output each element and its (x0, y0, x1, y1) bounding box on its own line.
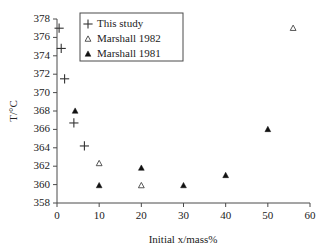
x-tick-label: 50 (262, 209, 274, 221)
y-tick-label: 376 (34, 30, 51, 42)
marker-triangle-filled (96, 182, 102, 187)
y-tick-label: 366 (34, 122, 51, 134)
legend-label: Marshall 1981 (97, 47, 161, 59)
x-tick-label: 40 (220, 209, 232, 221)
marker-triangle-open (290, 25, 296, 30)
y-tick-label: 364 (34, 141, 51, 153)
y-axis-ticks: 358360362364366368370372374376378 (34, 12, 58, 208)
marker-plus (55, 24, 64, 33)
y-tick-label: 360 (34, 178, 51, 190)
marker-triangle-filled (223, 172, 229, 177)
marker-plus (69, 118, 78, 127)
x-tick-label: 10 (94, 209, 106, 221)
y-tick-label: 368 (34, 104, 51, 116)
y-tick-label: 358 (34, 196, 51, 208)
x-tick-label: 60 (305, 209, 317, 221)
y-tick-label: 374 (34, 49, 51, 61)
series-marshall-1981 (72, 108, 271, 188)
marker-triangle-filled (181, 182, 187, 187)
y-tick-label: 370 (34, 86, 51, 98)
marker-plus (60, 74, 69, 83)
marker-triangle-filled (138, 165, 144, 170)
marker-triangle-open (138, 182, 144, 187)
x-tick-label: 0 (54, 209, 60, 221)
marker-plus (57, 44, 66, 53)
y-tick-label: 362 (34, 159, 51, 171)
scatter-chart-figure: 358360362364366368370372374376378 010203… (0, 0, 325, 252)
marker-triangle-filled (265, 126, 271, 131)
marker-plus (80, 141, 89, 150)
y-tick-label: 372 (34, 67, 51, 79)
chart-canvas: 358360362364366368370372374376378 010203… (0, 0, 325, 252)
x-axis-ticks: 0102030405060 (54, 203, 316, 221)
x-tick-label: 20 (136, 209, 148, 221)
marker-triangle-open (96, 160, 102, 165)
chart-legend: This studyMarshall 1982Marshall 1981 (80, 13, 183, 61)
legend-label: This study (97, 17, 144, 29)
x-axis-title: Initial x/mass% (149, 233, 218, 245)
legend-label: Marshall 1982 (97, 32, 161, 44)
x-tick-label: 30 (178, 209, 190, 221)
marker-triangle-filled (72, 108, 78, 113)
y-tick-label: 378 (34, 12, 51, 24)
y-axis-title: T/°C (7, 100, 19, 122)
